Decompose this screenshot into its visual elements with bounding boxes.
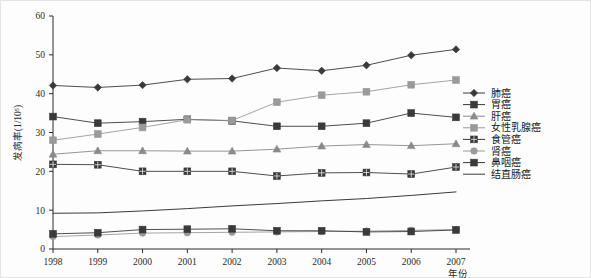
x-tick-label: 2004 bbox=[312, 257, 331, 267]
series-line bbox=[53, 229, 456, 234]
y-tick-label: 30 bbox=[36, 128, 46, 138]
data-point bbox=[139, 226, 146, 233]
data-point bbox=[273, 99, 280, 106]
x-tick-label: 1998 bbox=[44, 257, 63, 267]
data-point bbox=[318, 123, 325, 130]
series-2 bbox=[49, 140, 460, 157]
legend-label: 食管癌 bbox=[491, 133, 521, 145]
legend-item-3[interactable]: 女性乳腺癌 bbox=[463, 121, 541, 133]
data-point bbox=[453, 227, 460, 234]
data-point bbox=[229, 117, 236, 124]
legend-item-1[interactable]: 胃癌 bbox=[463, 98, 511, 110]
legend-label: 女性乳腺癌 bbox=[491, 121, 541, 133]
data-point bbox=[94, 120, 101, 127]
data-point bbox=[228, 75, 235, 82]
incidence-line-chart: 0102030405060199819992000200120022003200… bbox=[1, 1, 591, 278]
data-point bbox=[183, 147, 191, 154]
y-tick-label: 60 bbox=[36, 11, 46, 21]
data-point bbox=[50, 113, 57, 120]
legend-label: 结直肠癌 bbox=[491, 168, 531, 180]
data-point bbox=[229, 225, 236, 232]
data-point bbox=[139, 124, 146, 131]
data-point bbox=[184, 76, 191, 83]
legend-item-0[interactable]: 肺癌 bbox=[463, 87, 511, 99]
legend-marker bbox=[471, 124, 478, 131]
x-tick-label: 2006 bbox=[402, 257, 421, 267]
data-point bbox=[363, 141, 371, 148]
legend-item-2[interactable]: 肝癌 bbox=[463, 110, 511, 122]
y-tick-label: 0 bbox=[40, 244, 45, 254]
series-5 bbox=[50, 226, 460, 240]
x-tick-label: 2005 bbox=[357, 257, 376, 267]
series-7 bbox=[53, 192, 456, 213]
series-line bbox=[53, 80, 456, 140]
series-line bbox=[53, 144, 456, 154]
legend-item-4[interactable]: 食管癌 bbox=[463, 133, 521, 145]
data-point bbox=[453, 77, 460, 84]
x-tick-label: 2000 bbox=[133, 257, 152, 267]
legend-item-5[interactable]: 肾癌 bbox=[463, 145, 511, 157]
y-tick-label: 50 bbox=[36, 50, 46, 60]
y-tick-label: 20 bbox=[36, 167, 46, 177]
legend-label: 肾癌 bbox=[491, 145, 511, 157]
data-point bbox=[363, 62, 370, 69]
legend-marker bbox=[470, 89, 477, 96]
y-tick-label: 10 bbox=[36, 206, 46, 216]
legend-label: 肺癌 bbox=[491, 87, 511, 99]
legend-label: 鼻咽癌 bbox=[491, 156, 521, 168]
series-line bbox=[53, 49, 456, 87]
legend-layer: 肺癌胃癌肝癌女性乳腺癌食管癌肾癌鼻咽癌结直肠癌 bbox=[463, 87, 541, 180]
x-tick-label: 2007 bbox=[447, 257, 466, 267]
series-0 bbox=[49, 46, 459, 91]
data-point bbox=[408, 52, 415, 59]
data-point bbox=[408, 110, 415, 117]
data-point bbox=[139, 147, 147, 154]
data-point bbox=[94, 147, 102, 154]
data-point bbox=[273, 64, 280, 71]
data-point bbox=[363, 120, 370, 127]
data-point bbox=[452, 140, 460, 147]
series-layer bbox=[49, 46, 460, 240]
legend-item-6[interactable]: 鼻咽癌 bbox=[463, 156, 521, 168]
legend-marker bbox=[471, 101, 478, 108]
series-line bbox=[53, 164, 456, 176]
label-layer: 发病率(1/10⁵)年份 bbox=[12, 105, 468, 278]
data-point bbox=[318, 92, 325, 99]
x-tick-label: 1999 bbox=[88, 257, 107, 267]
x-tick-label: 2003 bbox=[267, 257, 286, 267]
series-line bbox=[53, 113, 456, 126]
chart-figure: 0102030405060199819992000200120022003200… bbox=[0, 0, 591, 278]
data-point bbox=[50, 137, 57, 144]
data-point bbox=[452, 46, 459, 53]
series-1 bbox=[50, 110, 460, 130]
legend-marker bbox=[471, 148, 478, 155]
data-point bbox=[273, 123, 280, 130]
x-axis-title: 年份 bbox=[448, 268, 468, 278]
data-point bbox=[408, 81, 415, 88]
data-point bbox=[318, 227, 325, 234]
data-point bbox=[318, 67, 325, 74]
legend-label: 肝癌 bbox=[491, 110, 511, 122]
legend-label: 胃癌 bbox=[491, 98, 511, 110]
data-point bbox=[94, 131, 101, 138]
data-point bbox=[273, 227, 280, 234]
x-tick-label: 2002 bbox=[223, 257, 242, 267]
data-point bbox=[363, 229, 370, 236]
data-point bbox=[94, 229, 101, 236]
y-tick-label: 40 bbox=[36, 89, 46, 99]
data-point bbox=[363, 88, 370, 95]
data-point bbox=[94, 84, 101, 91]
data-point bbox=[184, 226, 191, 233]
series-line bbox=[53, 230, 456, 237]
data-point bbox=[408, 228, 415, 235]
series-6 bbox=[50, 225, 460, 237]
data-point bbox=[139, 81, 146, 88]
series-4 bbox=[50, 161, 460, 179]
data-point bbox=[49, 82, 56, 89]
legend-marker bbox=[471, 159, 478, 166]
data-point bbox=[453, 114, 460, 121]
x-tick-label: 2001 bbox=[178, 257, 197, 267]
axis-frame bbox=[53, 16, 470, 249]
data-point bbox=[50, 230, 57, 237]
legend-item-7[interactable]: 结直肠癌 bbox=[463, 168, 531, 180]
